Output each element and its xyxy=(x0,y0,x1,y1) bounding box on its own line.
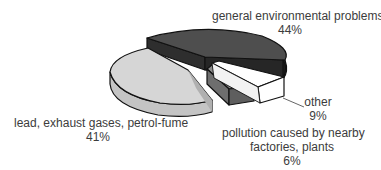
label-percent: 9% xyxy=(298,109,338,123)
label-text-line2: factories, plants xyxy=(222,140,362,154)
label-text: other xyxy=(298,95,338,109)
label-general-environmental-problems: general environmental problems 44% xyxy=(212,9,368,37)
label-text: general environmental problems xyxy=(212,9,368,23)
label-other: other 9% xyxy=(298,95,338,123)
label-percent: 41% xyxy=(14,130,182,144)
label-percent: 44% xyxy=(212,23,368,37)
label-pollution-factories: pollution caused by nearby factories, pl… xyxy=(222,126,362,168)
label-text-line1: pollution caused by nearby xyxy=(222,126,362,140)
label-lead-exhaust-gases: lead, exhaust gases, petrol-fume 41% xyxy=(14,116,182,144)
label-text: lead, exhaust gases, petrol-fume xyxy=(14,116,182,130)
label-percent: 6% xyxy=(222,154,362,168)
